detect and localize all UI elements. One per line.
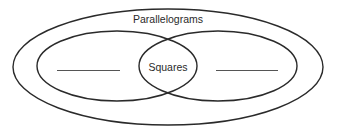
intersection-label: Squares [148,61,187,73]
outer-set-label: Parallelograms [133,13,203,25]
venn-diagram: Parallelograms Squares [0,0,337,133]
